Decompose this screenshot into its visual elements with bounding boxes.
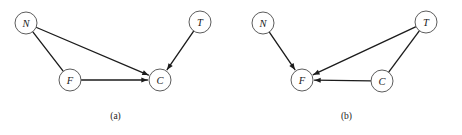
node-label-F: F <box>66 75 74 86</box>
edge-T-to-F <box>313 27 415 75</box>
panel-b: NTFC (b) <box>231 0 462 135</box>
panel-a-caption: (a) <box>0 111 231 121</box>
node-T[interactable]: T <box>415 11 437 33</box>
node-T[interactable]: T <box>189 11 211 33</box>
arrowhead-N-to-F <box>289 63 295 70</box>
panel-b-caption: (b) <box>231 111 462 121</box>
node-label-N: N <box>258 18 267 29</box>
arrowhead-C-to-F <box>314 78 320 83</box>
panel-a: NTFC (a) <box>0 0 231 135</box>
edge-N-to-F <box>33 32 63 71</box>
node-label-C: C <box>156 75 164 86</box>
node-C[interactable]: C <box>371 70 393 92</box>
node-label-N: N <box>21 18 30 29</box>
node-N[interactable]: N <box>15 12 37 34</box>
figure-root: NTFC (a) NTFC (b) <box>0 0 462 135</box>
arrowhead-F-to-C <box>141 77 147 82</box>
node-F[interactable]: F <box>59 69 81 91</box>
edge-C-to-F <box>314 78 370 83</box>
node-N[interactable]: N <box>252 12 274 34</box>
dag-graph-b: NTFC <box>231 0 462 108</box>
edge-N-to-C <box>37 28 149 76</box>
node-C[interactable]: C <box>149 69 171 91</box>
edge-N-to-F <box>269 32 294 69</box>
node-label-F: F <box>298 75 306 86</box>
edge-T-to-C <box>167 31 193 69</box>
node-label-C: C <box>378 76 386 87</box>
arrowhead-T-to-C <box>167 63 173 70</box>
dag-graph-a: NTFC <box>0 0 231 108</box>
edge-F-to-C <box>82 77 148 82</box>
node-F[interactable]: F <box>291 69 313 91</box>
